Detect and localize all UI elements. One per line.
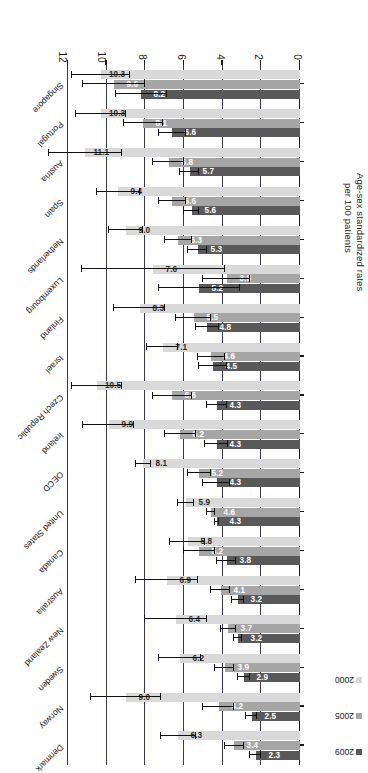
bar-value-label: 2.3 (268, 751, 279, 760)
value-tick-label: 6 (176, 54, 187, 60)
error-bar (114, 307, 164, 308)
bar-2005 (225, 663, 300, 672)
error-bar (109, 229, 144, 230)
error-bar (83, 424, 133, 425)
error-bar (159, 132, 186, 133)
error-bar-cap (123, 119, 124, 126)
value-tick (183, 60, 184, 65)
value-axis: 024681012 (68, 19, 300, 65)
error-bar-cap (224, 265, 225, 272)
error-bar-cap (260, 751, 261, 758)
category-label: Austria (40, 159, 66, 185)
error-bar (159, 200, 186, 201)
error-bar-cap (144, 80, 145, 87)
error-bar-cap (183, 158, 184, 165)
error-bar-cap (243, 596, 244, 603)
bar-group: 2.33.46.3 (68, 726, 300, 765)
category-tick (300, 239, 304, 240)
error-bar-cap (214, 547, 215, 554)
category-label: Portugal (36, 120, 66, 150)
bar-value-label: 6.6 (185, 197, 196, 206)
error-bar-cap (218, 323, 219, 330)
category-label: Singapore (31, 81, 66, 116)
error-bar-cap (121, 149, 122, 156)
category-tick (300, 161, 304, 162)
bar-value-label: 5.9 (199, 498, 210, 507)
error-bar (203, 706, 234, 707)
category-label: Spain (43, 198, 66, 221)
error-bar (184, 210, 199, 211)
bar-value-label: 8.3 (152, 304, 163, 313)
error-bar-cap (142, 226, 143, 233)
error-bar-cap (135, 576, 136, 583)
bar-group: 4.34.65.9 (68, 493, 300, 532)
error-bar-cap (206, 246, 207, 253)
error-bar (176, 317, 211, 318)
error-bar-cap (187, 469, 188, 476)
error-bar-cap (158, 129, 159, 136)
error-bar-cap (235, 557, 236, 564)
bar-value-label: 9.0 (139, 693, 150, 702)
error-bar-cap (177, 343, 178, 350)
error-bar-cap (202, 275, 203, 282)
error-bar (153, 161, 184, 162)
error-bar-cap (191, 392, 192, 399)
category-tick (300, 472, 304, 473)
bar-value-label: 6.2 (193, 654, 204, 663)
error-bar-cap (183, 547, 184, 554)
error-bar (97, 191, 140, 192)
error-bar-cap (90, 693, 91, 700)
error-bar-cap (249, 751, 250, 758)
error-bar-cap (210, 586, 211, 593)
error-bar-cap (139, 188, 140, 195)
bar-value-label: 4.3 (229, 401, 240, 410)
error-bar-cap (227, 440, 228, 447)
error-bar (184, 550, 215, 551)
category-label: Denmark (34, 742, 66, 773)
error-bar-cap (235, 625, 236, 632)
bar-value-label: 5.2 (212, 469, 223, 478)
error-bar-cap (160, 693, 161, 700)
category-tick (300, 356, 304, 357)
axis-title-line-1: Age-sex standardized rates (355, 173, 366, 291)
bar-value-label: 8.2 (154, 90, 165, 99)
error-bar-cap (224, 742, 225, 749)
error-bar (161, 735, 196, 736)
legend-label: 2000 (335, 675, 354, 685)
bar-2000 (109, 420, 300, 429)
bar-value-label: 3.7 (241, 624, 252, 633)
bar-2000 (97, 381, 300, 390)
error-bar-cap (233, 635, 234, 642)
error-bar-cap (204, 440, 205, 447)
category-tick (300, 317, 304, 318)
bar-value-label: 6.3 (191, 236, 202, 245)
bar-2005 (221, 586, 300, 595)
error-bar-cap (71, 71, 72, 78)
category-label: Finland (39, 314, 66, 341)
bar-2005 (234, 741, 300, 750)
error-bar-cap (226, 401, 227, 408)
error-bar (207, 404, 226, 405)
error-bar-cap (256, 712, 257, 719)
category-label: Sweden (36, 664, 65, 693)
bar-group: 4.36.29.9 (68, 415, 300, 454)
category-tick (300, 200, 304, 201)
error-bar-cap (216, 557, 217, 564)
bar-value-label: 5.2 (212, 284, 223, 293)
error-bar (159, 288, 240, 289)
error-bar-cap (82, 80, 83, 87)
error-bar-cap (200, 654, 201, 661)
legend-item-2009: 2009 (304, 747, 362, 757)
value-tick (260, 60, 261, 65)
error-bar-cap (166, 90, 167, 97)
bar-value-label: 3.4 (247, 741, 258, 750)
bar-value-label: 4.3 (229, 517, 240, 526)
error-bar (91, 696, 161, 697)
category-tick (300, 83, 304, 84)
error-bar-cap (144, 615, 145, 622)
error-bar-cap (195, 430, 196, 437)
bar-2009 (238, 634, 300, 643)
error-bar (188, 249, 207, 250)
error-bar-cap (129, 71, 130, 78)
error-bar-cap (125, 110, 126, 117)
